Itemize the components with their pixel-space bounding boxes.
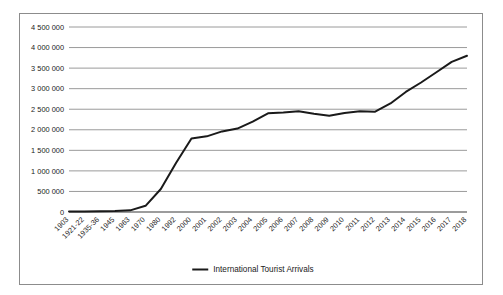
y-axis-tick-label: 4 000 000 — [31, 43, 64, 52]
x-axis-tick-label: 2000 — [175, 215, 193, 233]
chart-legend: International Tourist Arrivals — [192, 265, 313, 274]
x-axis-tick-label: 1970 — [129, 215, 147, 233]
x-axis-tick-label: 1945 — [98, 215, 116, 233]
x-axis-tick-label: 2018 — [450, 215, 468, 233]
y-axis-tick-label: 500 000 — [37, 187, 64, 196]
x-axis-tick-label: 2006 — [267, 215, 285, 233]
x-axis-tick-label: 2004 — [236, 215, 254, 233]
y-axis-tick-label: 2 500 000 — [31, 105, 64, 114]
x-axis-tick-label: 2007 — [282, 215, 300, 233]
x-axis-tick-label: 2005 — [251, 215, 269, 233]
gridlines — [69, 27, 467, 212]
x-axis-tick-label: 2008 — [297, 215, 315, 233]
x-axis-tick-label: 1992 — [160, 215, 178, 233]
x-axis-tick-label: 2003 — [221, 215, 239, 233]
x-axis-tick-label: 2014 — [389, 215, 407, 233]
y-axis-tick-labels: 4 500 0004 000 0003 500 0003 000 0002 50… — [31, 23, 64, 217]
chart-figure: 4 500 0004 000 0003 500 0003 000 0002 50… — [19, 13, 483, 285]
y-axis-tick-label: 4 500 000 — [31, 23, 64, 32]
x-axis-tick-label: 2015 — [404, 215, 422, 233]
y-axis-tick-label: 1 500 000 — [31, 146, 64, 155]
x-axis-tick-label: 2010 — [328, 215, 346, 233]
x-axis-tick-label: 2013 — [374, 215, 392, 233]
x-axis-tick-label: 2017 — [435, 215, 453, 233]
y-axis-tick-label: 3 000 000 — [31, 84, 64, 93]
y-axis-tick-label: 3 500 000 — [31, 64, 64, 73]
x-axis-tick-label: 1963 — [114, 215, 132, 233]
x-axis-tick-label: 2011 — [344, 215, 362, 233]
line-chart: 4 500 0004 000 0003 500 0003 000 0002 50… — [20, 14, 482, 284]
x-axis-tick-label: 2016 — [420, 215, 438, 233]
legend-label: International Tourist Arrivals — [213, 265, 313, 274]
y-axis-tick-label: 1 000 000 — [31, 167, 64, 176]
x-axis-tick-label: 2009 — [313, 215, 331, 233]
y-axis-tick-label: 2 000 000 — [31, 125, 64, 134]
x-axis-tick-label: 2012 — [359, 215, 377, 233]
x-axis-tick-label: 2002 — [205, 215, 223, 233]
x-axis-tick-label: 1980 — [144, 215, 162, 233]
x-axis-tick-label: 2001 — [190, 215, 208, 233]
data-line-international-tourist-arrivals — [69, 56, 467, 212]
x-axis-tick-labels: 19031921-221935-361945196319701980199220… — [52, 215, 468, 241]
data-series-group — [69, 56, 467, 212]
